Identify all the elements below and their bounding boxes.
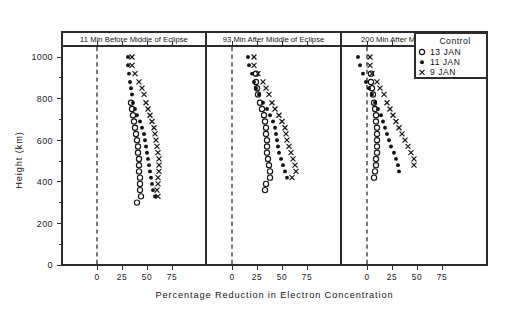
marker-p3-11JAN-3	[364, 80, 368, 84]
marker-p2-11JAN-5	[257, 92, 261, 96]
marker-p2-9JAN-0	[252, 55, 257, 60]
marker-p1-9JAN-9	[150, 119, 155, 124]
legend-label-2: 9 JAN	[430, 67, 456, 77]
marker-p1-9JAN-20	[155, 188, 160, 193]
marker-p2-9JAN-5	[267, 92, 272, 97]
marker-p2-11JAN-8	[268, 113, 272, 117]
y-tick-label-0: 0	[48, 260, 53, 270]
marker-p1-9JAN-16	[157, 163, 162, 168]
marker-p1-13JAN-11	[136, 169, 141, 174]
marker-p3-11JAN-16	[396, 163, 400, 167]
marker-p1-13JAN-12	[137, 175, 142, 180]
marker-p1-11JAN-7	[133, 107, 137, 111]
marker-p1-9JAN-2	[133, 71, 138, 76]
marker-p2-13JAN-9	[263, 131, 268, 136]
legend-label-1: 11 JAN	[430, 57, 461, 67]
marker-p3-9JAN-12	[403, 138, 408, 143]
marker-p3-13JAN-15	[372, 169, 377, 174]
marker-p2-9JAN-17	[294, 169, 299, 174]
marker-p2-13JAN-10	[264, 138, 269, 143]
marker-p1-9JAN-1	[130, 63, 135, 68]
marker-p2-9JAN-16	[293, 163, 298, 168]
marker-p1-9JAN-17	[157, 169, 162, 174]
marker-p3-11JAN-17	[397, 169, 401, 173]
marker-p1-13JAN-9	[136, 156, 141, 161]
marker-p3-11JAN-14	[392, 151, 396, 155]
marker-p3-11JAN-4	[367, 86, 371, 90]
marker-p3-13JAN-0	[368, 71, 373, 76]
marker-p1-11JAN-16	[147, 163, 151, 167]
marker-p1-9JAN-19	[156, 181, 161, 186]
marker-p1-9JAN-11	[153, 131, 158, 136]
x-tick-label-p1-50: 50	[142, 272, 152, 282]
x-axis-title: Percentage Reduction in Electron Concent…	[155, 290, 393, 300]
marker-p2-9JAN-15	[291, 156, 296, 161]
marker-p1-11JAN-11	[142, 132, 146, 136]
marker-p2-9JAN-10	[283, 125, 288, 130]
marker-p2-13JAN-5	[259, 106, 264, 111]
marker-p1-11JAN-20	[151, 188, 155, 192]
legend-label-0: 13 JAN	[430, 47, 461, 57]
marker-p1-9JAN-3	[137, 79, 142, 84]
marker-p3-13JAN-7	[373, 119, 378, 124]
marker-p2-13JAN-11	[264, 144, 269, 149]
marker-p3-9JAN-0	[368, 55, 373, 60]
marker-p3-11JAN-8	[379, 113, 383, 117]
marker-p3-13JAN-11	[374, 144, 379, 149]
y-tick-label-200: 200	[37, 219, 53, 229]
y-axis-title: Height (km)	[14, 131, 24, 188]
marker-p2-11JAN-9	[271, 120, 275, 124]
marker-p3-11JAN-9	[381, 120, 385, 124]
y-tick-label-1000: 1000	[31, 52, 53, 62]
marker-p1-13JAN-6	[134, 138, 139, 143]
y-tick-label-600: 600	[37, 136, 53, 146]
marker-p3-13JAN-14	[373, 163, 378, 168]
marker-p3-11JAN-7	[376, 107, 380, 111]
marker-p1-9JAN-14	[156, 150, 161, 155]
marker-p2-11JAN-7	[265, 107, 269, 111]
marker-p2-11JAN-15	[279, 157, 283, 161]
marker-p2-13JAN-14	[266, 163, 271, 168]
marker-p2-9JAN-4	[264, 86, 269, 91]
x-tick-label-p3-50: 50	[412, 272, 422, 282]
marker-p1-13JAN-3	[131, 119, 136, 124]
marker-p1-11JAN-10	[140, 126, 144, 130]
marker-p2-11JAN-17	[283, 169, 287, 173]
marker-p1-9JAN-13	[155, 144, 160, 149]
marker-p2-11JAN-2	[250, 72, 254, 76]
marker-p2-11JAN-13	[276, 144, 280, 148]
eclipse-scatter-figure: 02004006008001000Height (km)11 Min Befor…	[0, 0, 506, 313]
marker-p1-9JAN-12	[154, 138, 159, 143]
marker-p1-11JAN-9	[138, 120, 142, 124]
marker-p2-11JAN-14	[277, 151, 281, 155]
marker-p3-9JAN-3	[375, 79, 380, 84]
marker-p3-9JAN-4	[378, 86, 383, 91]
marker-p3-11JAN-13	[389, 144, 393, 148]
marker-p1-11JAN-4	[129, 86, 133, 90]
x-tick-label-p2-25: 25	[252, 272, 262, 282]
marker-p3-13JAN-13	[373, 156, 378, 161]
marker-p3-9JAN-15	[412, 156, 417, 161]
marker-p2-11JAN-6	[261, 101, 265, 105]
marker-p1-11JAN-2	[127, 72, 131, 76]
marker-p1-13JAN-5	[133, 131, 138, 136]
marker-p3-11JAN-0	[356, 55, 360, 59]
marker-p1-11JAN-13	[144, 144, 148, 148]
marker-p2-11JAN-0	[246, 55, 250, 59]
marker-p3-13JAN-16	[371, 175, 376, 180]
marker-p1-11JAN-19	[150, 182, 154, 186]
marker-p1-11JAN-0	[126, 55, 130, 59]
marker-p2-9JAN-3	[261, 79, 266, 84]
marker-p1-11JAN-5	[130, 92, 134, 96]
marker-p3-9JAN-11	[400, 131, 405, 136]
marker-p1-13JAN-10	[136, 163, 141, 168]
marker-p2-9JAN-6	[270, 100, 275, 105]
x-tick-label-p3-75: 75	[437, 272, 447, 282]
y-tick-label-400: 400	[37, 177, 53, 187]
marker-p1-13JAN-7	[135, 144, 140, 149]
marker-p3-11JAN-6	[373, 101, 377, 105]
marker-p3-9JAN-6	[385, 100, 390, 105]
marker-p1-13JAN-4	[132, 125, 137, 130]
marker-p3-9JAN-14	[409, 150, 414, 155]
y-tick-label-800: 800	[37, 94, 53, 104]
